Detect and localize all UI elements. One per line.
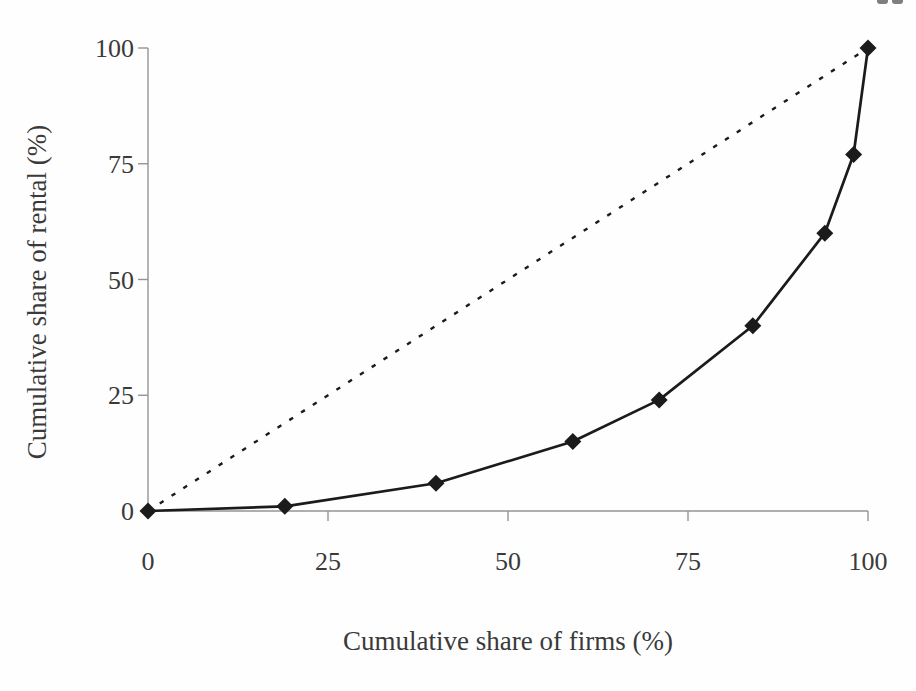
data-point-marker [428,475,445,492]
data-point-marker [564,433,581,450]
data-point-marker [845,146,862,163]
y-tick-label: 25 [108,381,134,410]
y-tick-label: 100 [95,34,134,63]
x-tick-label: 50 [495,547,521,576]
y-tick-label: 50 [108,266,134,295]
data-point-marker [140,503,157,520]
x-tick-label: 25 [315,547,341,576]
data-point-marker [276,498,293,515]
x-axis-title: Cumulative share of firms (%) [343,626,673,656]
lorenz-curve-chart: Cumulative share of firms (%) Cumulative… [0,0,916,691]
data-point-marker [860,40,877,57]
y-tick-label: 0 [121,497,134,526]
y-axis-title: Cumulative share of rental (%) [22,125,52,459]
x-tick-label: 0 [142,547,155,576]
y-tick-label: 75 [108,150,134,179]
scanned-figure-page: Cumulative share of firms (%) Cumulative… [0,0,916,691]
equality-line [148,48,868,511]
x-tick-label: 75 [675,547,701,576]
x-tick-label: 100 [849,547,888,576]
